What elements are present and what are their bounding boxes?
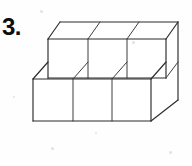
cube-stack-figure: [0, 0, 192, 166]
figure-page: 3.: [0, 0, 192, 166]
lower-row-top-face: [33, 62, 166, 79]
upper-row-top-face: [48, 22, 178, 39]
lower-front-face-3: [112, 79, 151, 121]
lower-front-face-2: [73, 79, 112, 121]
lower-front-face-1: [33, 79, 73, 121]
